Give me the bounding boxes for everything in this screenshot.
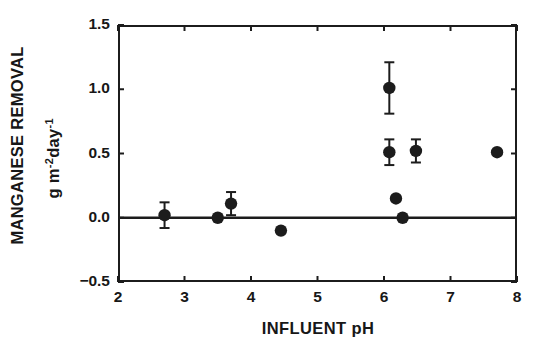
plot-frame bbox=[118, 25, 517, 282]
y-tick-label: −0.5 bbox=[50, 272, 110, 290]
x-tick-label: 8 bbox=[502, 288, 532, 306]
y-axis-title: MANGANESE REMOVAL bbox=[8, 11, 27, 281]
y-tick-label: 0.5 bbox=[50, 144, 110, 162]
x-tick-label: 5 bbox=[303, 288, 333, 306]
y-units-base-1: g m bbox=[44, 168, 62, 198]
x-tick-label: 2 bbox=[103, 288, 133, 306]
x-axis-title: INFLUENT pH bbox=[118, 319, 518, 338]
chart-figure: MANGANESE REMOVAL g m-2day-1 INFLUENT pH… bbox=[0, 0, 549, 353]
y-tick-label: 1.5 bbox=[50, 15, 110, 33]
y-units-exponent-2: -1 bbox=[43, 118, 55, 128]
x-tick-label: 6 bbox=[369, 288, 399, 306]
x-tick-label: 4 bbox=[236, 288, 266, 306]
x-tick-label: 3 bbox=[170, 288, 200, 306]
y-tick-label: 0.0 bbox=[50, 208, 110, 226]
x-tick-label: 7 bbox=[436, 288, 466, 306]
y-tick-label: 1.0 bbox=[50, 79, 110, 97]
